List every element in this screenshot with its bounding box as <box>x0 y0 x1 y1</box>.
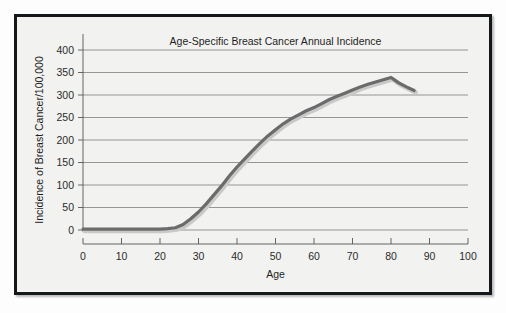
grid-lines <box>83 50 468 230</box>
x-tick-label: 100 <box>459 250 477 262</box>
y-axis-label: Incidence of Breast Cancer/100,000 <box>33 56 45 224</box>
x-tick-label: 80 <box>385 250 397 262</box>
x-tick-label: 30 <box>193 250 205 262</box>
y-tick-label: 300 <box>56 89 74 101</box>
x-tick-label: 40 <box>231 250 243 262</box>
y-tick-label: 350 <box>56 66 74 78</box>
y-tick-label: 150 <box>56 156 74 168</box>
x-tick-label: 60 <box>308 250 320 262</box>
x-tick-label: 20 <box>154 250 166 262</box>
y-tick-label: 400 <box>56 44 74 56</box>
y-tick-label: 250 <box>56 111 74 123</box>
axis-lines <box>83 34 468 244</box>
figure-canvas: 0102030405060708090100 05010015020025030… <box>0 0 506 313</box>
chart-title: Age-Specific Breast Cancer Annual Incide… <box>170 35 382 47</box>
incidence-line-chart: 0102030405060708090100 05010015020025030… <box>17 17 489 292</box>
x-tick-label: 70 <box>347 250 359 262</box>
series-line <box>83 77 414 229</box>
y-axis-ticks: 050100150200250300350400 <box>56 44 83 236</box>
y-tick-label: 50 <box>62 201 74 213</box>
x-axis-label: Age <box>266 268 285 280</box>
x-tick-label: 10 <box>116 250 128 262</box>
y-tick-label: 100 <box>56 179 74 191</box>
x-tick-label: 0 <box>80 250 86 262</box>
x-tick-label: 50 <box>270 250 282 262</box>
chart-frame: 0102030405060708090100 05010015020025030… <box>14 14 492 295</box>
x-tick-label: 90 <box>424 250 436 262</box>
x-axis-ticks: 0102030405060708090100 <box>80 238 477 262</box>
data-series <box>83 77 416 230</box>
y-tick-label: 200 <box>56 134 74 146</box>
y-tick-label: 0 <box>68 224 74 236</box>
